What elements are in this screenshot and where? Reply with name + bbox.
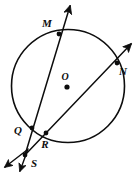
label-N: N — [118, 65, 128, 77]
geometry-canvas: M N Q R S O — [0, 0, 139, 176]
geometry-diagram: M N Q R S O — [0, 0, 139, 176]
label-R: R — [40, 138, 48, 150]
point-dot-Q — [30, 126, 35, 131]
label-M: M — [41, 17, 53, 29]
point-dot-M — [57, 32, 62, 37]
ray-S-down-left-a — [5, 150, 27, 167]
label-O: O — [61, 71, 68, 82]
point-dot-O — [64, 84, 69, 89]
label-S: S — [31, 157, 37, 169]
point-dot-S — [23, 153, 28, 158]
point-dot-R — [44, 131, 49, 136]
label-Q: Q — [14, 124, 22, 136]
